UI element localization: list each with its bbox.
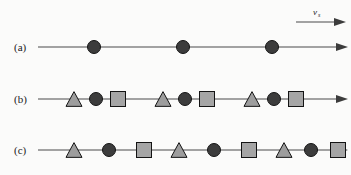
- row-label: (a): [14, 41, 27, 54]
- marker-circle: [103, 144, 116, 157]
- marker-circle: [177, 41, 190, 54]
- row-label: (c): [14, 144, 27, 157]
- marker-circle: [208, 144, 221, 157]
- marker-square: [137, 143, 152, 158]
- marker-circle: [266, 41, 279, 54]
- row-label: (b): [14, 93, 27, 106]
- marker-circle: [179, 93, 192, 106]
- marker-circle: [268, 93, 281, 106]
- marker-square: [111, 92, 126, 107]
- velocity-symbol: v: [313, 7, 317, 17]
- marker-circle: [90, 93, 103, 106]
- marker-square: [331, 143, 346, 158]
- marker-square: [289, 92, 304, 107]
- wave-pulse-diagram: v s (a)(b)(c): [0, 0, 351, 175]
- marker-square: [242, 143, 257, 158]
- marker-circle: [305, 144, 318, 157]
- marker-circle: [88, 41, 101, 54]
- marker-square: [200, 92, 215, 107]
